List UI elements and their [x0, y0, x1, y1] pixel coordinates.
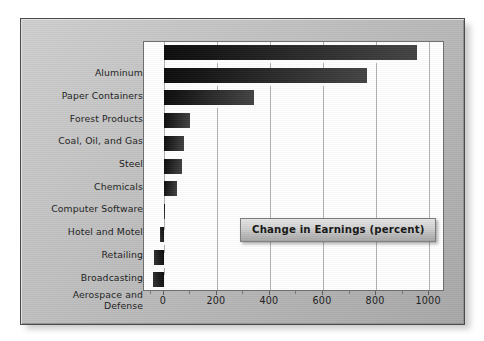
bar-row: [144, 178, 443, 201]
category-label: Forest Products: [29, 114, 143, 125]
x-tick-label: 800: [366, 295, 385, 306]
bar[interactable]: [164, 45, 417, 60]
chart-panel: AluminumPaper ContainersForest ProductsC…: [20, 18, 465, 325]
category-label: Hotel and Motel: [29, 227, 143, 238]
category-label: Aluminum: [29, 68, 143, 79]
category-label: Paper Containers: [29, 91, 143, 102]
bar[interactable]: [164, 113, 191, 128]
x-tick-minor: [242, 291, 243, 294]
bar-row: [144, 42, 443, 65]
category-axis-labels: AluminumPaper ContainersForest ProductsC…: [29, 40, 143, 290]
bar[interactable]: [153, 272, 164, 287]
category-label: Chemicals: [29, 182, 143, 193]
x-axis-tick-labels: 02004006008001000: [143, 295, 444, 311]
bar-row: [144, 247, 443, 270]
bar[interactable]: [164, 90, 254, 105]
bar-row: [144, 156, 443, 179]
x-tick-minor: [349, 291, 350, 294]
category-label: Coal, Oil, and Gas: [29, 136, 143, 147]
x-tick-minor: [150, 291, 151, 294]
x-tick-label: 400: [260, 295, 279, 306]
category-label: Steel: [29, 159, 143, 170]
bar[interactable]: [154, 250, 164, 265]
bar[interactable]: [164, 181, 177, 196]
plot-inner: [144, 42, 443, 290]
category-label: Retailing: [29, 250, 143, 261]
x-tick-minor: [402, 291, 403, 294]
x-tick-minor: [189, 291, 190, 294]
bar[interactable]: [164, 136, 184, 151]
bar-row: [144, 269, 443, 290]
category-label: Broadcasting: [29, 273, 143, 284]
plot-area: [143, 41, 444, 291]
bar-row: [144, 87, 443, 110]
x-tick-label: 600: [313, 295, 332, 306]
bar[interactable]: [164, 159, 182, 174]
bar[interactable]: [164, 204, 166, 219]
bar[interactable]: [160, 227, 164, 242]
chart-screenshot: AluminumPaper ContainersForest ProductsC…: [0, 0, 484, 341]
bar-row: [144, 65, 443, 88]
bar-row: [144, 110, 443, 133]
x-tick-label: 200: [206, 295, 225, 306]
category-label: Computer Software: [29, 204, 143, 215]
bar[interactable]: [164, 68, 367, 83]
chart-title-plaque: Change in Earnings (percent): [240, 218, 436, 242]
bar-row: [144, 133, 443, 156]
category-label: Aerospace and Defense: [29, 290, 143, 311]
x-tick-label: 0: [160, 295, 166, 306]
x-tick-minor: [295, 291, 296, 294]
x-tick-label: 1000: [415, 295, 440, 306]
